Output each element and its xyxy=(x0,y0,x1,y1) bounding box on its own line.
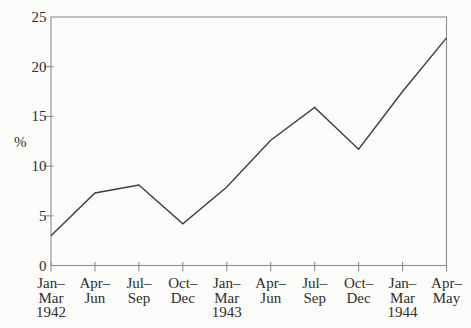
y-tick-label: 15 xyxy=(32,108,47,124)
x-tick-label: 1943 xyxy=(212,304,242,320)
y-tick-label: 20 xyxy=(32,59,47,75)
y-tick-label: 10 xyxy=(32,158,47,174)
y-axis-unit-label: % xyxy=(14,134,27,150)
x-tick-label: Jun xyxy=(260,290,281,306)
x-tick-label: 1944 xyxy=(388,304,419,320)
y-tick-label: 5 xyxy=(39,208,47,224)
x-tick-label: Jun xyxy=(85,290,106,306)
y-tick-label: 25 xyxy=(32,9,47,25)
chart-page: % 0510152025Jan–Mar1942Apr–JunJul–SepOct… xyxy=(0,0,471,328)
x-tick-label: May xyxy=(433,290,461,306)
data-line xyxy=(51,38,447,236)
plot-frame xyxy=(51,17,447,266)
x-tick-label: Sep xyxy=(128,290,151,306)
x-tick-label: Dec xyxy=(171,290,195,306)
y-tick-label: 0 xyxy=(39,258,47,274)
line-chart: % 0510152025Jan–Mar1942Apr–JunJul–SepOct… xyxy=(0,0,471,328)
x-tick-label: Dec xyxy=(347,290,371,306)
x-tick-label: Sep xyxy=(303,290,326,306)
x-tick-label: 1942 xyxy=(36,304,66,320)
